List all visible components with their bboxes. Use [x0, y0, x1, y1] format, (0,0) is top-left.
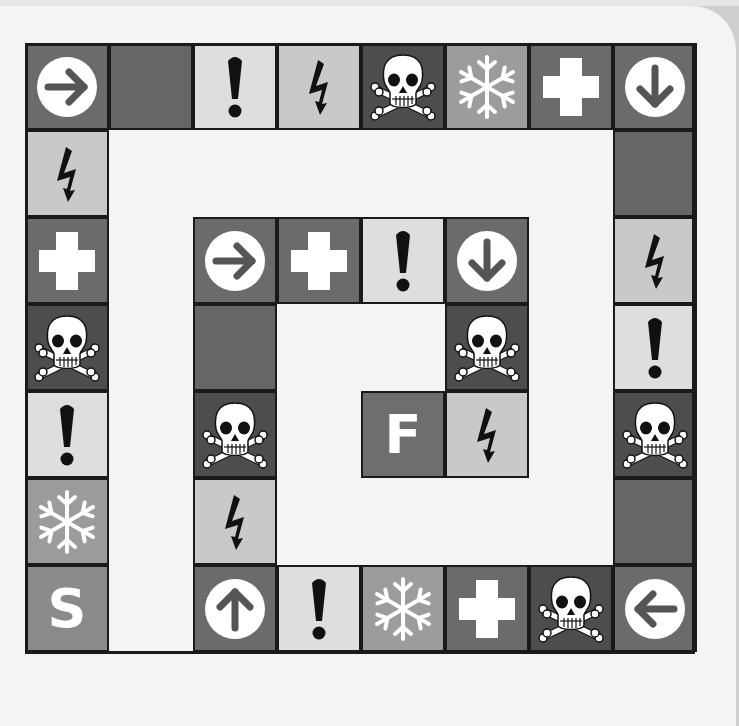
board-space-plus[interactable] [445, 565, 529, 652]
board-space-arrow-up[interactable] [193, 565, 277, 652]
lightning-bolt-icon [220, 493, 250, 551]
board-space-snow[interactable] [445, 43, 529, 130]
board-space-skull[interactable] [529, 565, 613, 652]
plus-icon [457, 578, 517, 640]
board-space-exclaim[interactable] [277, 565, 361, 652]
board-space-arrow-right[interactable] [193, 217, 277, 304]
board-space-exclaim[interactable] [193, 43, 277, 130]
arrow-down-icon [456, 230, 518, 292]
snowflake-icon [457, 54, 517, 120]
board-space-arrow-down[interactable] [445, 217, 529, 304]
board-space-plus[interactable] [277, 217, 361, 304]
board-space-skull[interactable] [445, 304, 529, 391]
arrow-down-icon [624, 56, 686, 118]
board-space-bolt[interactable] [613, 217, 697, 304]
board-space-skull[interactable] [25, 304, 109, 391]
lightning-bolt-icon [52, 145, 82, 203]
start-space[interactable]: S [25, 565, 109, 652]
arrow-left-icon [624, 578, 686, 640]
board-space-exclaim[interactable] [25, 391, 109, 478]
board-space-arrow-down[interactable] [613, 43, 697, 130]
lightning-bolt-icon [472, 406, 502, 464]
board-space-arrow-right[interactable] [25, 43, 109, 130]
snowflake-icon [37, 489, 97, 555]
finish-label: F [385, 408, 422, 462]
board-space-bolt[interactable] [193, 478, 277, 565]
skull-crossbones-icon [538, 575, 604, 643]
board-space-blank[interactable] [109, 43, 193, 130]
board-space-exclaim[interactable] [613, 304, 697, 391]
exclamation-icon [223, 55, 247, 119]
board-space-snow[interactable] [361, 565, 445, 652]
board-space-snow[interactable] [25, 478, 109, 565]
arrow-right-icon [204, 230, 266, 292]
board-space-exclaim[interactable] [361, 217, 445, 304]
board-space-plus[interactable] [25, 217, 109, 304]
start-label: S [48, 582, 87, 636]
exclamation-icon [55, 403, 79, 467]
plus-icon [289, 230, 349, 292]
board-space-bolt[interactable] [277, 43, 361, 130]
plus-icon [37, 230, 97, 292]
board-space-skull[interactable] [361, 43, 445, 130]
exclamation-icon [307, 577, 331, 641]
skull-crossbones-icon [370, 53, 436, 121]
arrow-right-icon [36, 56, 98, 118]
exclamation-icon [391, 229, 415, 293]
exclamation-icon [643, 316, 667, 380]
skull-crossbones-icon [622, 401, 688, 469]
skull-crossbones-icon [202, 401, 268, 469]
board-space-blank[interactable] [613, 478, 697, 565]
board-space-skull[interactable] [193, 391, 277, 478]
snowflake-icon [373, 576, 433, 642]
board-space-plus[interactable] [529, 43, 613, 130]
arrow-up-icon [204, 578, 266, 640]
finish-space[interactable]: F [361, 391, 445, 478]
lightning-bolt-icon [304, 58, 334, 116]
skull-crossbones-icon [34, 314, 100, 382]
board-space-arrow-left[interactable] [613, 565, 697, 652]
board-space-skull[interactable] [613, 391, 697, 478]
board-space-blank[interactable] [193, 304, 277, 391]
board-space-bolt[interactable] [445, 391, 529, 478]
lightning-bolt-icon [640, 232, 670, 290]
board-space-blank[interactable] [613, 130, 697, 217]
board-space-bolt[interactable] [25, 130, 109, 217]
plus-icon [541, 56, 601, 118]
skull-crossbones-icon [454, 314, 520, 382]
